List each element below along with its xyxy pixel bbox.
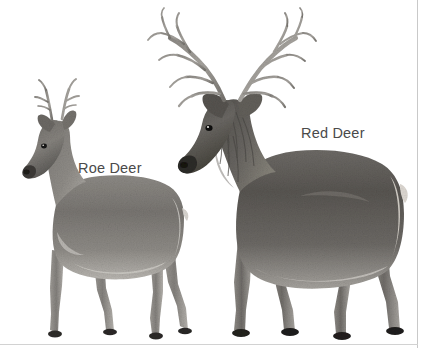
border-line-bottom: [0, 344, 418, 345]
label-roe-deer: Roe Deer: [78, 160, 142, 176]
deer-comparison-figure: Roe Deer Red Deer: [0, 0, 435, 353]
border-line-right: [417, 0, 418, 348]
roe-deer-illustration: [0, 0, 435, 353]
label-red-deer: Red Deer: [301, 125, 365, 141]
